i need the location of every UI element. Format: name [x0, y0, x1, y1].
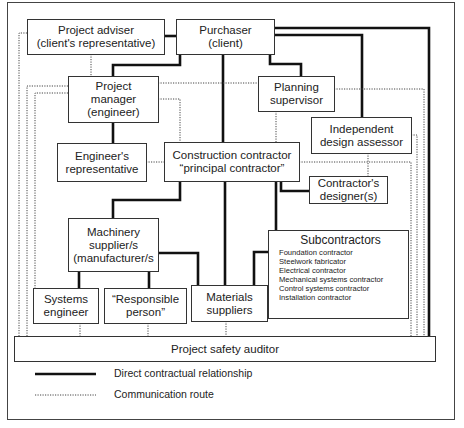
- subcontractors-title: Subcontractors: [300, 234, 381, 247]
- node-label: Systems: [44, 293, 88, 306]
- node-label: (client): [208, 37, 243, 50]
- node-label: (client's representative): [37, 37, 156, 50]
- node-label: supplier/s: [89, 239, 138, 252]
- legend-dotted-label: Communication route: [114, 388, 214, 400]
- subcontractor-item: Electrical contractor: [279, 266, 346, 275]
- node-label: “principal contractor”: [180, 162, 285, 175]
- node-systems-engineer: Systems engineer: [33, 288, 99, 324]
- node-construction-contractor: Construction contractor “principal contr…: [164, 142, 300, 182]
- node-label: manager: [91, 93, 136, 106]
- node-label: engineer: [44, 306, 89, 319]
- node-label: suppliers: [206, 304, 252, 317]
- legend-solid-label: Direct contractual relationship: [114, 367, 252, 379]
- node-purchaser: Purchaser (client): [176, 19, 275, 55]
- subcontractor-item: Steelwork fabricator: [279, 257, 346, 266]
- node-project-manager: Project manager (engineer): [68, 76, 159, 123]
- node-label: representative: [66, 163, 139, 176]
- node-independent-design-assessor: Independent design assessor: [311, 117, 412, 154]
- node-label: (manufacturer/s: [73, 252, 154, 265]
- node-label: Project: [96, 80, 132, 93]
- node-label: supervisor: [270, 94, 323, 107]
- node-engineers-representative: Engineer's representative: [57, 143, 147, 182]
- node-label: Independent: [330, 123, 394, 136]
- subcontractor-item: Control systems contractor: [279, 284, 369, 293]
- subcontractor-item: Mechanical systems contractor: [279, 275, 383, 284]
- node-label: Construction contractor: [173, 149, 292, 162]
- node-label: Materials: [206, 291, 253, 304]
- node-responsible-person: “Responsible person”: [104, 288, 187, 324]
- node-subcontractors: Subcontractors Foundation contractor Ste…: [268, 230, 409, 319]
- node-materials-suppliers: Materials suppliers: [191, 285, 268, 322]
- subcontractor-item: Foundation contractor: [279, 248, 353, 257]
- node-label: Purchaser: [199, 24, 251, 37]
- node-label: person”: [126, 306, 165, 319]
- connector-lines: [0, 0, 464, 428]
- node-contractors-designers: Contractor's designer(s): [309, 176, 388, 204]
- node-label: Project adviser: [58, 24, 134, 37]
- organization-diagram: Project adviser (client's representative…: [0, 0, 464, 428]
- node-label: Project safety auditor: [171, 343, 279, 356]
- node-label: designer(s): [320, 190, 378, 203]
- node-project-safety-auditor: Project safety auditor: [14, 336, 436, 362]
- node-label: Engineer's: [75, 150, 129, 163]
- node-machinery-supplier: Machinery supplier/s (manufacturer/s: [68, 218, 159, 272]
- node-label: Planning: [274, 81, 319, 94]
- node-label: Contractor's: [318, 177, 380, 190]
- subcontractor-item: Installation contractor: [279, 293, 351, 302]
- node-label: “Responsible: [112, 293, 179, 306]
- node-label: (engineer): [87, 106, 139, 119]
- node-label: Machinery: [87, 226, 140, 239]
- node-label: design assessor: [320, 136, 403, 149]
- node-planning-supervisor: Planning supervisor: [258, 76, 335, 112]
- node-project-adviser: Project adviser (client's representative…: [27, 19, 165, 55]
